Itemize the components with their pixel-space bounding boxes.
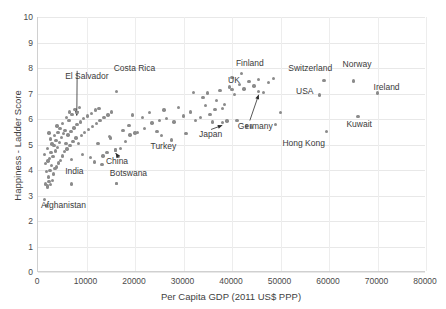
- data-point: [127, 124, 130, 127]
- data-point: [201, 96, 204, 99]
- data-point: [95, 122, 98, 125]
- data-point: [247, 80, 250, 83]
- data-point: [53, 134, 56, 137]
- data-point: [86, 114, 89, 117]
- data-point: [56, 146, 59, 149]
- y-axis-tick-label: 10: [3, 13, 33, 22]
- data-point: [50, 142, 53, 145]
- point-label: Hong Kong: [282, 139, 325, 148]
- data-point: [47, 175, 50, 178]
- gridline-horizontal: [38, 272, 425, 273]
- point-label: Costa Rica: [114, 64, 156, 73]
- data-point: [51, 155, 54, 158]
- data-point: [55, 124, 58, 127]
- x-axis-tick-label: 70000: [365, 277, 389, 286]
- y-axis-tick-label: 2: [3, 217, 33, 226]
- data-point: [213, 108, 216, 111]
- plot-area: El SalvadorCosta RicaIndiaAfghanistanChi…: [37, 17, 425, 272]
- gridline-vertical: [329, 17, 330, 271]
- data-point: [162, 108, 165, 111]
- data-point: [75, 123, 78, 126]
- scatter-chart: El SalvadorCosta RicaIndiaAfghanistanChi…: [0, 0, 446, 309]
- y-axis-tick-label: 1: [3, 242, 33, 251]
- x-axis-tick-label: 10000: [74, 277, 98, 286]
- data-point: [54, 149, 57, 152]
- data-point: [204, 104, 207, 107]
- data-point: [233, 93, 236, 96]
- data-point: [100, 163, 103, 166]
- y-axis-tick-label: 0: [3, 268, 33, 277]
- point-label: Ireland: [374, 83, 400, 92]
- data-point: [89, 156, 92, 159]
- data-point: [79, 120, 82, 123]
- data-point: [46, 186, 49, 189]
- data-point: [52, 172, 55, 175]
- data-point-labeled: [318, 93, 321, 96]
- data-point: [131, 113, 134, 116]
- data-point: [49, 183, 52, 186]
- data-point: [49, 151, 52, 154]
- data-point: [63, 129, 66, 132]
- data-point-labeled: [352, 79, 355, 82]
- data-point: [101, 154, 104, 157]
- data-point: [51, 179, 54, 182]
- point-label: Switzerland: [288, 64, 332, 73]
- data-point-labeled: [70, 182, 73, 185]
- data-point: [121, 129, 124, 132]
- data-point: [97, 107, 100, 110]
- gridline-vertical: [426, 17, 427, 271]
- data-point: [93, 160, 96, 163]
- data-point: [62, 132, 65, 135]
- data-point-labeled: [75, 111, 78, 114]
- y-axis-title: Happiness - Ladder Score: [12, 76, 23, 216]
- data-point: [69, 130, 72, 133]
- point-label: China: [106, 157, 128, 166]
- data-point: [81, 153, 84, 156]
- point-label: Finland: [236, 59, 264, 68]
- data-point: [49, 137, 52, 140]
- point-label: UK: [228, 76, 240, 85]
- data-point: [267, 81, 270, 84]
- data-point: [208, 113, 211, 116]
- gridline-vertical: [87, 17, 88, 271]
- x-axis-tick-label: 40000: [219, 277, 243, 286]
- data-point: [80, 134, 83, 137]
- data-point: [189, 110, 192, 113]
- data-point: [211, 120, 214, 123]
- gridline-vertical: [378, 17, 379, 271]
- gridline-vertical: [135, 17, 136, 271]
- data-point: [61, 122, 64, 125]
- data-point: [272, 77, 275, 80]
- y-axis-tick-label: 9: [3, 38, 33, 47]
- data-point: [150, 121, 153, 124]
- point-label: Germany: [238, 122, 273, 131]
- data-point: [225, 119, 228, 122]
- data-point-labeled: [230, 88, 233, 91]
- gridline-vertical: [232, 17, 233, 271]
- x-axis-tick-label: 30000: [171, 277, 195, 286]
- data-point: [43, 153, 46, 156]
- point-label: El Salvador: [65, 72, 108, 81]
- point-label: Kuwait: [346, 120, 372, 129]
- data-point: [182, 114, 185, 117]
- data-point: [68, 144, 71, 147]
- data-point: [55, 165, 58, 168]
- data-point: [279, 111, 282, 114]
- data-point: [215, 99, 218, 102]
- data-point: [64, 142, 67, 145]
- data-point: [242, 87, 245, 90]
- data-point: [59, 159, 62, 162]
- data-point: [72, 126, 75, 129]
- x-axis-tick-label: 80000: [413, 277, 437, 286]
- data-point: [194, 119, 197, 122]
- data-point: [56, 131, 59, 134]
- data-point-labeled: [160, 134, 163, 137]
- data-point-labeled: [115, 182, 118, 185]
- data-point: [252, 84, 255, 87]
- data-point: [68, 110, 71, 113]
- x-axis-tick-label: 50000: [268, 277, 292, 286]
- data-point: [106, 113, 109, 116]
- data-point: [223, 103, 226, 106]
- y-axis-tick-label: 8: [3, 64, 33, 73]
- point-label: Afghanistan: [41, 201, 86, 210]
